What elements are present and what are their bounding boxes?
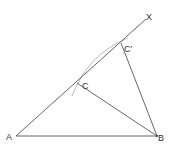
construction-arc bbox=[72, 38, 128, 96]
label-c: C bbox=[82, 81, 89, 91]
label-b: B bbox=[158, 133, 164, 143]
label-cprime: C′ bbox=[124, 44, 132, 54]
ray-ax bbox=[16, 19, 146, 136]
geometry-diagram: A B C C′ X bbox=[0, 0, 171, 151]
segment-cprime-b bbox=[121, 43, 157, 136]
segment-cb bbox=[77, 83, 157, 136]
label-a: A bbox=[6, 132, 12, 142]
label-x: X bbox=[146, 12, 152, 22]
